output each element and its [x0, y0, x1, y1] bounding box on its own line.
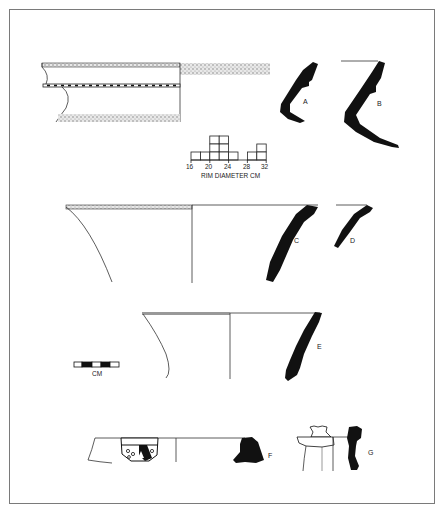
rim-diameter-histogram: 16 20 24 28 32 RIM DIAMETER CM	[186, 136, 269, 179]
histogram-x-axis-label: RIM DIAMETER CM	[201, 172, 260, 179]
vessel-g-half-section	[297, 426, 353, 471]
profile-label-f: F	[268, 452, 272, 459]
histogram-tick-16: 16	[186, 163, 194, 170]
sherd-profile-a: A	[280, 62, 318, 123]
histogram-tick-24: 24	[224, 163, 232, 170]
scale-bar: CM	[74, 362, 119, 377]
profile-label-c: C	[294, 237, 299, 244]
sherd-profile-b: B	[341, 61, 399, 148]
histogram-tick-28: 28	[243, 163, 251, 170]
profile-label-e: E	[317, 343, 322, 350]
profile-label-b: B	[377, 100, 382, 107]
sherd-profile-g: G	[347, 426, 373, 470]
profile-label-g: G	[368, 449, 373, 456]
profile-label-d: D	[350, 237, 355, 244]
sherd-profile-d: D	[334, 205, 373, 248]
sherd-profile-c: C	[266, 205, 318, 282]
histogram-tick-20: 20	[205, 163, 213, 170]
sherd-profile-f: F	[233, 437, 272, 463]
decorated-panel	[121, 438, 158, 461]
vessel-f-half-section	[88, 438, 245, 463]
vessel-top-profile	[42, 63, 270, 122]
scale-bar-label: CM	[92, 370, 102, 377]
pottery-drawing-canvas: A B 16 20 24	[0, 0, 444, 517]
profile-label-a: A	[303, 98, 308, 105]
histogram-tick-32: 32	[261, 163, 269, 170]
sherd-profile-e: E	[285, 312, 322, 381]
